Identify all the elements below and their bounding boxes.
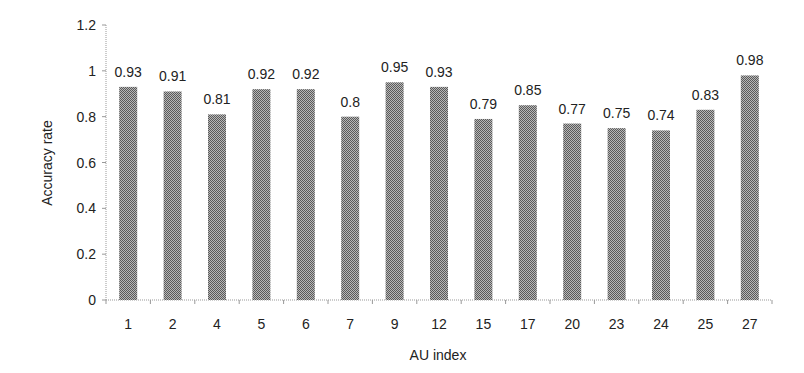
bar [696, 110, 714, 300]
bar [119, 87, 137, 300]
bar-value-label: 0.83 [692, 87, 719, 103]
y-tick-label: 0.4 [77, 200, 97, 216]
x-tick-label: 9 [391, 316, 399, 332]
bar-value-label: 0.92 [248, 66, 275, 82]
bar-value-label: 0.85 [514, 82, 541, 98]
bar [164, 91, 182, 300]
y-tick-label: 0.6 [77, 155, 97, 171]
x-tick-label: 23 [609, 316, 625, 332]
y-tick-label: 0 [88, 292, 96, 308]
bar-value-label: 0.98 [736, 52, 763, 68]
bar [297, 89, 315, 300]
x-tick-label: 12 [431, 316, 447, 332]
bar [386, 82, 404, 300]
x-axis-title: AU index [410, 347, 467, 363]
bar [563, 124, 581, 300]
bar-chart: 00.20.40.60.811.2 1245679121517202324252… [0, 0, 804, 373]
y-axis-title: Accuracy rate [39, 120, 55, 206]
bar-value-label: 0.8 [340, 94, 360, 110]
x-tick-label: 24 [653, 316, 669, 332]
x-tick-label: 15 [476, 316, 492, 332]
x-tick-label: 6 [302, 316, 310, 332]
y-tick-label: 1 [88, 63, 96, 79]
x-axis: 12456791215172023242527 [106, 300, 772, 332]
x-tick-label: 5 [258, 316, 266, 332]
bar-value-label: 0.92 [292, 66, 319, 82]
bar-value-label: 0.77 [559, 101, 586, 117]
y-tick-label: 1.2 [77, 17, 97, 33]
x-tick-label: 20 [564, 316, 580, 332]
bar-value-label: 0.79 [470, 96, 497, 112]
y-tick-label: 0.8 [77, 109, 97, 125]
x-tick-label: 7 [346, 316, 354, 332]
bar [608, 128, 626, 300]
bar-value-label: 0.91 [159, 68, 186, 84]
bar [430, 87, 448, 300]
x-tick-label: 17 [520, 316, 536, 332]
y-tick-label: 0.2 [77, 246, 97, 262]
bar [652, 130, 670, 300]
bar-value-label: 0.95 [381, 59, 408, 75]
x-tick-label: 2 [169, 316, 177, 332]
bar [474, 119, 492, 300]
bar-value-label: 0.93 [115, 64, 142, 80]
bar [208, 114, 226, 300]
x-tick-label: 1 [124, 316, 132, 332]
bar [252, 89, 270, 300]
bar [341, 117, 359, 300]
x-tick-label: 27 [742, 316, 758, 332]
bar-value-label: 0.74 [647, 107, 674, 123]
bar-value-label: 0.81 [203, 91, 230, 107]
y-axis: 00.20.40.60.811.2 [77, 17, 106, 308]
bar-value-label: 0.93 [425, 64, 452, 80]
bar-value-label: 0.75 [603, 105, 630, 121]
bar [519, 105, 537, 300]
bar [741, 75, 759, 300]
x-tick-label: 4 [213, 316, 221, 332]
x-tick-label: 25 [698, 316, 714, 332]
